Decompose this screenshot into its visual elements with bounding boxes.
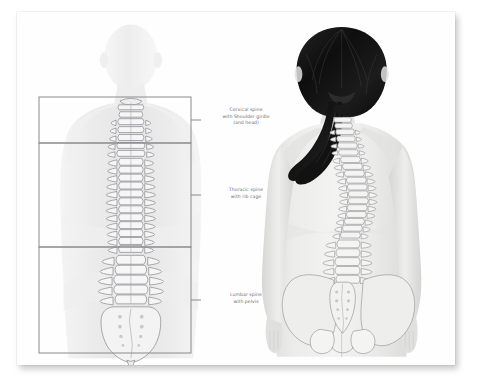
paper-card: Cervical spine with Shoulder girdle (and… <box>17 12 455 365</box>
illustration-stage: Cervical spine with Shoulder girdle (and… <box>0 0 480 389</box>
label-lumbar-line2: with pelvis <box>203 299 289 306</box>
label-cervical: Cervical spine with Shoulder girdle (and… <box>203 107 289 127</box>
label-cervical-line3: (and head) <box>203 120 289 127</box>
label-lumbar: Lumbar spine with pelvis <box>203 292 289 305</box>
label-thoracic-line2: with rib cage <box>203 194 289 201</box>
label-thoracic: Thoracic spine with rib cage <box>203 187 289 200</box>
callout-labels: Cervical spine with Shoulder girdle (and… <box>17 12 455 365</box>
